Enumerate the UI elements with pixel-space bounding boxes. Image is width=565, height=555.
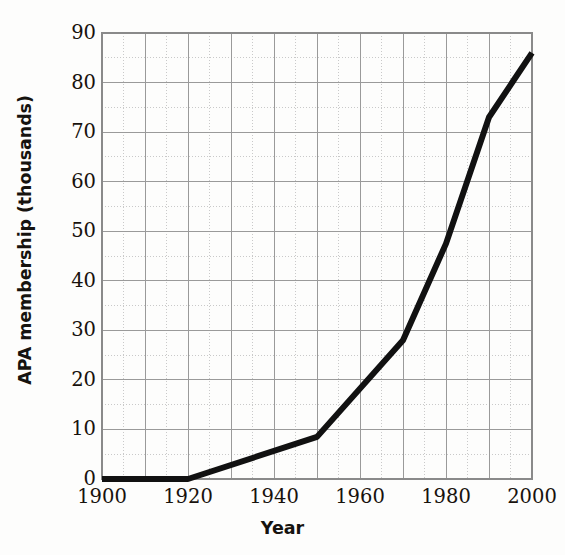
plot-area: [0, 0, 565, 555]
chart-container: APA membership (thousands) 0102030405060…: [0, 0, 565, 555]
